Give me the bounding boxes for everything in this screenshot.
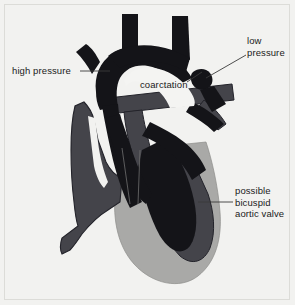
brachiocephalic-trunk	[76, 44, 100, 74]
label-low-pressure: lowpressure	[247, 35, 285, 58]
label-bicuspid-aortic-valve: possiblebicuspidaortic valve	[235, 185, 284, 220]
label-low-pressure-line2: pressure	[247, 47, 285, 58]
label-high-pressure: high pressure	[12, 65, 71, 77]
leader-line-low-pressure	[206, 55, 246, 78]
label-bicuspid-line2: bicuspid	[235, 197, 271, 208]
label-bicuspid-line1: possible	[235, 185, 271, 196]
label-bicuspid-line3: aortic valve	[235, 208, 284, 219]
label-coarctation: coarctation	[140, 79, 188, 91]
label-low-pressure-line1: low	[247, 35, 262, 46]
figure-root: high pressure lowpressure coarctation po…	[0, 0, 295, 305]
